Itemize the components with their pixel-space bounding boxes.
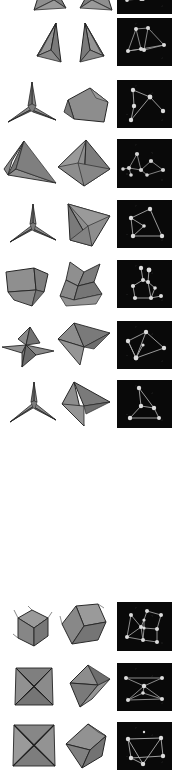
graph-panel (117, 602, 172, 651)
graph-panel (117, 200, 172, 248)
figure-row (0, 80, 175, 128)
graph-panel (117, 18, 172, 66)
mesh-shape-right (58, 200, 112, 248)
figure-row (0, 260, 175, 308)
mesh-shape-left (2, 139, 58, 188)
mesh-shape-right (58, 663, 112, 711)
shape-pair (0, 18, 116, 66)
mesh-shape-right (54, 139, 112, 188)
graph-panel (117, 722, 172, 770)
mesh-shape-left (33, 20, 73, 66)
figure-root (0, 0, 175, 781)
shape-pair (0, 260, 116, 308)
figure-row (0, 380, 175, 428)
figure-row (0, 200, 175, 248)
graph-panel (117, 0, 172, 14)
figure-row (0, 722, 175, 770)
shape-pair (0, 200, 116, 248)
shape-pair (0, 80, 116, 128)
shape-pair (0, 0, 116, 14)
mesh-shape-left (6, 80, 58, 128)
shape-pair (0, 321, 116, 369)
mesh-shape-left (0, 325, 56, 369)
mesh-shape-right (70, 0, 114, 14)
mesh-shape-left (32, 0, 74, 14)
shape-pair (0, 139, 116, 188)
mesh-shape-left (12, 665, 56, 709)
figure-whitespace-gap (0, 445, 175, 600)
mesh-shape-left (8, 380, 58, 426)
mesh-shape-right (68, 20, 110, 66)
mesh-shape-right (50, 321, 112, 367)
figure-row (0, 139, 175, 188)
shape-pair (0, 380, 116, 428)
mesh-shape-right (58, 602, 112, 651)
mesh-shape-left (8, 202, 58, 246)
mesh-shape-left (10, 604, 56, 650)
mesh-shape-right (56, 260, 112, 308)
graph-panel (117, 663, 172, 711)
mesh-shape-right (58, 722, 112, 770)
graph-panel (117, 80, 172, 128)
figure-row (0, 663, 175, 711)
graph-panel (117, 380, 172, 428)
figure-row (0, 0, 175, 14)
shape-pair (0, 722, 116, 770)
graph-panel (117, 139, 172, 188)
mesh-shape-right (56, 380, 112, 428)
mesh-shape-left (10, 722, 58, 770)
shape-pair (0, 602, 116, 651)
mesh-shape-right (60, 86, 112, 128)
figure-row (0, 321, 175, 369)
graph-panel (117, 260, 172, 308)
graph-panel (117, 321, 172, 369)
mesh-shape-left (2, 266, 54, 308)
shape-pair (0, 663, 116, 711)
figure-row (0, 602, 175, 651)
figure-row (0, 18, 175, 66)
